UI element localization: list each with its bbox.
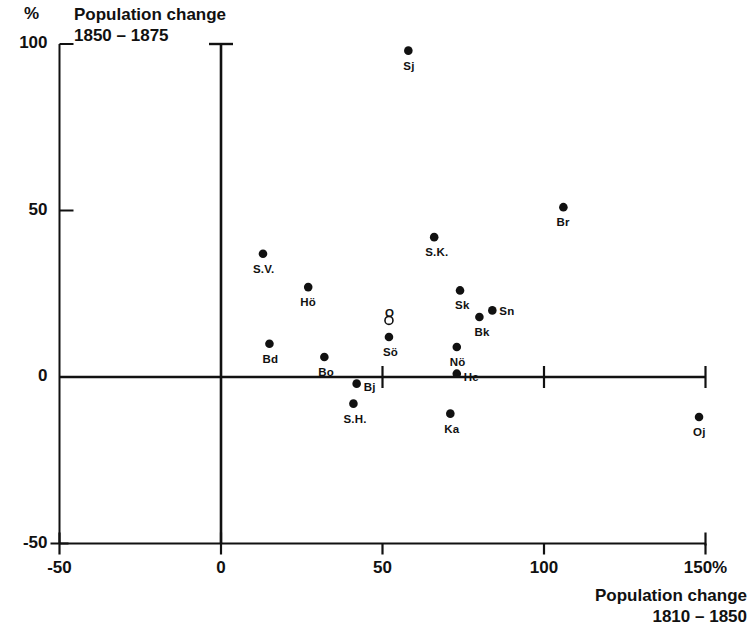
data-point-marker[interactable] (452, 369, 461, 378)
data-point-label: Bj (364, 381, 376, 393)
data-point-marker[interactable] (695, 413, 704, 422)
data-point-marker[interactable] (349, 399, 358, 408)
y-axis-tick-label: 50 (2, 200, 48, 220)
data-point-marker[interactable] (404, 46, 413, 55)
data-point-label: Sj (403, 60, 414, 72)
data-point-label: Oj (693, 426, 706, 438)
data-points-layer (259, 46, 704, 421)
data-point-marker[interactable] (488, 306, 497, 315)
data-point-label: Bo (318, 366, 334, 378)
data-point-marker[interactable] (304, 283, 313, 292)
data-point-label: Br (556, 216, 569, 228)
data-point-marker[interactable] (456, 286, 465, 295)
y-axis-tick-label: 100 (2, 33, 48, 53)
data-point-label: O (385, 307, 394, 319)
data-point-marker[interactable] (446, 409, 455, 418)
data-point-label: S.K. (425, 246, 448, 258)
data-point-marker[interactable] (452, 343, 461, 352)
data-point-label: He (464, 371, 479, 383)
data-point-label: Sk (455, 299, 469, 311)
data-point-marker[interactable] (265, 339, 274, 348)
axes-layer (51, 44, 706, 555)
y-axis-tick-label: 0 (2, 366, 48, 386)
x-axis-tick-label: 0 (186, 558, 256, 578)
data-point-label: S.H. (343, 413, 366, 425)
data-point-label: Bd (262, 353, 278, 365)
x-axis-tick-label: 50 (348, 558, 418, 578)
x-axis-tick-label: 100 (509, 558, 579, 578)
data-point-label: Nö (450, 356, 466, 368)
data-point-marker[interactable] (259, 249, 268, 258)
data-point-label: S.V. (253, 263, 274, 275)
data-point-label: Bk (474, 326, 489, 338)
data-point-label: Hö (300, 296, 316, 308)
y-axis-tick-label: -50 (2, 533, 48, 553)
data-point-label: Sö (383, 346, 398, 358)
data-point-marker[interactable] (475, 313, 484, 322)
data-point-label: Sn (499, 305, 514, 317)
data-point-label: Ka (444, 423, 459, 435)
scatter-plot-figure: % Population change1850 – 1875 Populatio… (0, 0, 755, 624)
x-axis-tick-label: -50 (25, 558, 95, 578)
plot-canvas (0, 0, 755, 624)
data-point-marker[interactable] (320, 353, 329, 362)
x-axis-tick-label: 150% (671, 558, 741, 578)
data-point-marker[interactable] (559, 203, 568, 212)
data-point-marker[interactable] (352, 379, 361, 388)
data-point-marker[interactable] (430, 233, 439, 242)
data-point-marker[interactable] (385, 333, 394, 342)
